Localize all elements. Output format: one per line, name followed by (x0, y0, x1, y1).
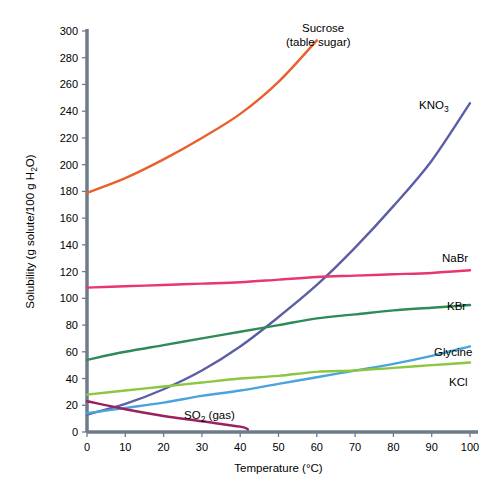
solubility-chart: 0204060801001201401601802002202402602803… (0, 0, 494, 498)
x-tick-label: 40 (234, 441, 246, 453)
y-tick-label: 140 (60, 239, 78, 251)
sucrose-label-line2: (table sugar) (286, 36, 351, 48)
y-tick-label: 120 (60, 266, 78, 278)
x-axis-title: Temperature (°C) (234, 462, 322, 474)
y-tick-label: 20 (66, 399, 78, 411)
series-curve-nabr (87, 270, 470, 287)
series-curve-kcl (87, 362, 470, 394)
y-tick-label: 240 (60, 105, 78, 117)
x-tick-label: 90 (426, 441, 438, 453)
y-axis-title: Solubility (g solute/100 g H2O) (24, 154, 39, 308)
kcl-label-text: KCl (449, 376, 468, 388)
series-curve-kbr (87, 305, 470, 360)
x-tick-label: 60 (311, 441, 323, 453)
x-tick-label: 50 (272, 441, 284, 453)
y-tick-label: 280 (60, 52, 78, 64)
x-tick-label: 30 (196, 441, 208, 453)
y-tick-label: 300 (60, 25, 78, 37)
y-tick-label: 180 (60, 185, 78, 197)
annotation-glycine-label: Glycine (434, 346, 472, 358)
x-tick-label: 20 (157, 441, 169, 453)
x-tick-label: 0 (84, 441, 90, 453)
x-tick-label: 100 (461, 441, 479, 453)
nabr-label-text: NaBr (442, 252, 468, 264)
series-curve-kno3 (87, 103, 470, 414)
y-tick-label: 0 (72, 426, 78, 438)
y-axis-title-text: Solubility (g solute/100 g H2O) (24, 154, 39, 308)
series-curve-sucrose (87, 40, 317, 192)
y-tick-label: 220 (60, 132, 78, 144)
annotation-sucrose-label: Sucrose(table sugar) (286, 22, 351, 48)
x-tick-label: 70 (349, 441, 361, 453)
y-tick-label: 80 (66, 319, 78, 331)
kno3-label-text: KNO3 (419, 99, 449, 114)
y-tick-label: 160 (60, 212, 78, 224)
x-tick-label: 80 (387, 441, 399, 453)
y-title-tail: O) (24, 154, 36, 167)
annotation-kno3-label: KNO3 (419, 99, 449, 114)
series-curve-glycine (87, 346, 470, 413)
y-tick-label: 60 (66, 346, 78, 358)
y-tick-label: 100 (60, 292, 78, 304)
kno3-label-subscript: 3 (444, 104, 449, 114)
so2-label-suffix: (gas) (205, 409, 235, 421)
y-tick-label: 260 (60, 78, 78, 90)
glycine-label-text: Glycine (434, 346, 472, 358)
annotation-kbr-label: KBr (447, 300, 466, 312)
annotation-nabr-label: NaBr (442, 252, 468, 264)
x-tick-label: 10 (119, 441, 131, 453)
annotation-kcl-label: KCl (449, 376, 468, 388)
chart-canvas: 0204060801001201401601802002202402602803… (0, 0, 494, 498)
kbr-label-text: KBr (447, 300, 466, 312)
y-tick-label: 200 (60, 159, 78, 171)
sucrose-label-line1: Sucrose (302, 22, 344, 34)
y-tick-label: 40 (66, 373, 78, 385)
